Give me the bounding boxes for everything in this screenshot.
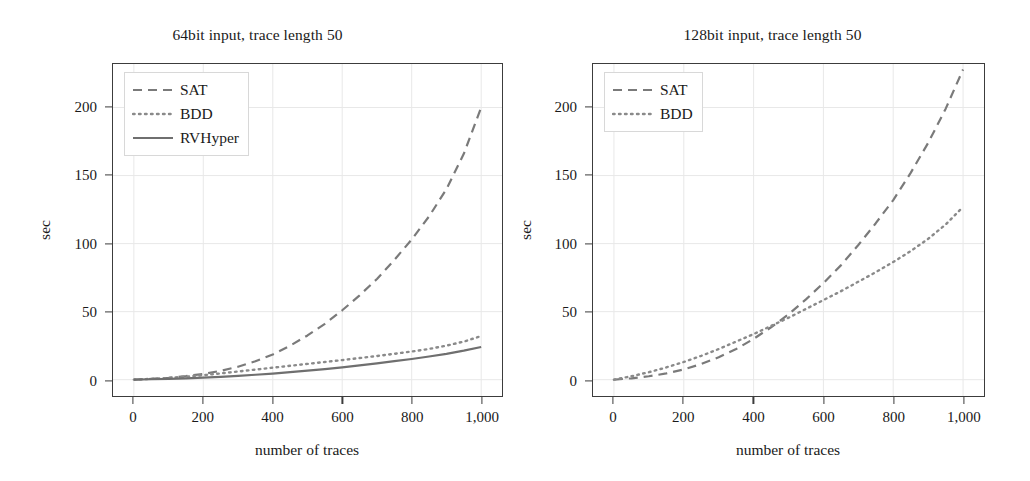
- y-tick-label: 50: [522, 304, 577, 321]
- y-tick-label: 0: [42, 372, 97, 389]
- x-axis-label-left: number of traces: [255, 441, 359, 459]
- x-tickmark: [132, 397, 133, 404]
- legend-swatch-sat-icon: [612, 83, 654, 97]
- legend-entry-bdd: BDD: [132, 102, 239, 126]
- x-tick-label: 200: [672, 409, 695, 426]
- y-tickmark: [105, 175, 112, 176]
- legend-label: BDD: [180, 106, 213, 122]
- y-tickmark: [105, 312, 112, 313]
- chart-title-right: 128bit input, trace length 50: [515, 26, 1030, 44]
- y-tick-label: 200: [42, 98, 97, 115]
- y-tickmark: [585, 106, 592, 107]
- legend-entry-rvhyper: RVHyper: [132, 126, 239, 150]
- y-tickmark: [105, 106, 112, 107]
- y-axis-label-left: sec: [36, 220, 54, 240]
- y-tickmark: [585, 312, 592, 313]
- x-tickmark: [963, 397, 964, 404]
- legend-label: RVHyper: [180, 130, 239, 146]
- x-tick-label: 400: [261, 409, 284, 426]
- y-tick-label: 150: [522, 167, 577, 184]
- legend-entry-sat: SAT: [612, 78, 693, 102]
- series-line-bdd: [614, 207, 963, 380]
- legend-label: BDD: [660, 106, 693, 122]
- x-tickmark: [683, 397, 684, 404]
- y-tick-label: 150: [42, 167, 97, 184]
- legend-entry-bdd: BDD: [612, 102, 693, 126]
- x-tickmark: [481, 397, 482, 404]
- y-tick-label: 50: [42, 304, 97, 321]
- y-tickmark: [585, 243, 592, 244]
- x-tickmark: [612, 397, 613, 404]
- series-line-bdd: [134, 336, 481, 380]
- x-tick-label: 0: [609, 409, 617, 426]
- x-tick-label: 1,000: [947, 409, 981, 426]
- chart-title-left: 64bit input, trace length 50: [0, 26, 515, 44]
- figure-two-panel-benchmark: 64bit input, trace length 50 05010015020…: [0, 0, 1030, 481]
- y-tickmark: [105, 243, 112, 244]
- x-tick-label: 200: [192, 409, 215, 426]
- y-tickmark: [585, 175, 592, 176]
- x-tickmark: [753, 397, 754, 404]
- y-tickmark: [105, 380, 112, 381]
- y-axis-label-right: sec: [517, 220, 535, 240]
- legend-left: SATBDDRVHyper: [124, 72, 249, 156]
- y-tickmark: [585, 380, 592, 381]
- x-tickmark: [893, 397, 894, 404]
- x-tickmark: [412, 397, 413, 404]
- y-tick-label: 0: [522, 372, 577, 389]
- legend-right: SATBDD: [604, 72, 703, 132]
- x-tick-label: 0: [129, 409, 137, 426]
- legend-swatch-rvhyper-icon: [132, 131, 174, 145]
- chart-panel-128bit: 128bit input, trace length 50 0501001502…: [515, 0, 1030, 481]
- legend-swatch-bdd-icon: [132, 107, 174, 121]
- x-tick-label: 600: [331, 409, 354, 426]
- x-tick-label: 400: [742, 409, 765, 426]
- x-tick-label: 1,000: [465, 409, 499, 426]
- legend-label: SAT: [180, 82, 208, 98]
- x-tickmark: [342, 397, 343, 404]
- x-tick-label: 800: [401, 409, 424, 426]
- legend-swatch-bdd-icon: [612, 107, 654, 121]
- x-tick-label: 600: [812, 409, 835, 426]
- chart-panel-64bit: 64bit input, trace length 50 05010015020…: [0, 0, 515, 481]
- legend-swatch-sat-icon: [132, 83, 174, 97]
- legend-entry-sat: SAT: [132, 78, 239, 102]
- x-axis-label-right: number of traces: [736, 441, 840, 459]
- x-tickmark: [202, 397, 203, 404]
- legend-label: SAT: [660, 82, 688, 98]
- x-tickmark: [823, 397, 824, 404]
- y-tick-label: 200: [522, 98, 577, 115]
- x-tickmark: [272, 397, 273, 404]
- x-tick-label: 800: [883, 409, 906, 426]
